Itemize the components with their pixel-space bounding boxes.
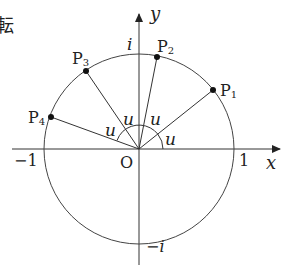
partial-heading-text: 転 [0, 15, 14, 36]
point-p1 [210, 87, 216, 93]
tick-i: i [127, 34, 132, 54]
angle-label-1: u [165, 129, 176, 149]
tick-one: 1 [239, 151, 249, 170]
origin-label: O [120, 153, 133, 172]
label-p2: P2 [157, 37, 174, 56]
label-p1: P1 [220, 81, 237, 100]
point-p3 [83, 68, 89, 74]
angle-label-2: u [150, 109, 161, 129]
radius-p2 [139, 57, 157, 149]
unit-circle-diagram: P1 P2 P3 P4 u u u u −1 1 O i −i x y 転 [0, 0, 292, 267]
y-axis-label: y [149, 3, 161, 24]
tick-neg-i: −i [146, 237, 165, 256]
label-p4: P4 [28, 108, 45, 127]
angle-label-3: u [123, 109, 134, 129]
point-p4 [48, 114, 54, 120]
label-p3: P3 [72, 49, 89, 68]
x-axis-label: x [266, 152, 276, 173]
angle-arc-1 [158, 134, 163, 149]
angle-arc-3 [117, 131, 123, 140]
angle-label-4: u [105, 120, 116, 140]
tick-neg-one: −1 [14, 151, 38, 170]
